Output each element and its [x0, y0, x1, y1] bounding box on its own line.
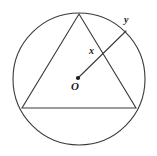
inscribed-triangle: [22, 14, 136, 108]
geometry-figure: O x y: [0, 0, 157, 156]
center-label-o: O: [71, 81, 79, 92]
point-label-y: y: [124, 15, 128, 25]
radius-segment-to-y: [78, 31, 126, 78]
geometry-canvas: [0, 0, 157, 156]
segment-label-x: x: [89, 46, 94, 56]
